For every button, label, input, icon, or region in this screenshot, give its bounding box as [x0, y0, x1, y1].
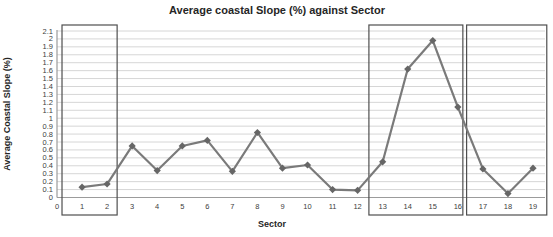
- chart-title: Average coastal Slope (%) against Sector: [169, 4, 386, 16]
- y-tick-label: 1.9: [43, 42, 53, 51]
- y-tick-label: 1.7: [43, 58, 53, 67]
- x-tick-label: 17: [479, 202, 487, 211]
- x-tick-label: 11: [329, 202, 337, 211]
- x-tick-label: 5: [180, 202, 184, 211]
- y-tick-label: 0.3: [43, 169, 53, 178]
- y-tick-label: 1: [49, 114, 53, 123]
- y-tick-label: 1.8: [43, 50, 53, 59]
- x-tick-label: 2: [105, 202, 109, 211]
- data-series: [78, 37, 536, 197]
- y-tick-label: 2: [49, 34, 53, 43]
- x-tick-label: 6: [205, 202, 209, 211]
- x-tick-label: 7: [230, 202, 234, 211]
- y-tick-label: 1.2: [43, 98, 53, 107]
- y-tick-label: 0.7: [43, 138, 53, 147]
- x-tick-label: 3: [130, 202, 134, 211]
- line-chart-canvas: 00.10.20.30.40.50.60.70.80.911.11.21.31.…: [0, 0, 553, 237]
- y-tick-label: 0.1: [43, 185, 53, 194]
- y-tick-label: 0.5: [43, 153, 53, 162]
- x-tick-label: 15: [429, 202, 437, 211]
- x-tick-label: 9: [280, 202, 284, 211]
- x-axis-title: Sector: [258, 219, 287, 229]
- x-tick-label: 10: [303, 202, 311, 211]
- y-tick-label: 0.6: [43, 145, 53, 154]
- x-tick-label: 0: [55, 202, 59, 211]
- coastal-slope-chart: 00.10.20.30.40.50.60.70.80.911.11.21.31.…: [0, 0, 553, 237]
- gridlines: [57, 31, 545, 198]
- x-tick-label: 12: [353, 202, 361, 211]
- y-axis-title: Average Coastal Slope (%): [2, 57, 12, 171]
- x-tick-label: 13: [379, 202, 387, 211]
- x-tick-label: 1: [80, 202, 84, 211]
- y-tick-label: 2.1: [43, 27, 53, 36]
- y-tick-label: 0.8: [43, 130, 53, 139]
- x-tick-label: 14: [404, 202, 412, 211]
- y-tick-label: 0.4: [43, 161, 53, 170]
- y-tick-label: 0.9: [43, 122, 53, 131]
- y-tick-label: 1.1: [43, 106, 53, 115]
- y-tick-label: 1.6: [43, 66, 53, 75]
- annotation-boxes: [62, 25, 547, 215]
- data-point: [454, 104, 461, 111]
- x-tick-label: 18: [504, 202, 512, 211]
- y-tick-label: 0.2: [43, 177, 53, 186]
- y-tick-label: 1.5: [43, 74, 53, 83]
- x-tick-label: 8: [255, 202, 259, 211]
- x-tick-label: 4: [155, 202, 159, 211]
- x-tick-label: 16: [454, 202, 462, 211]
- y-tick-label: 1.3: [43, 90, 53, 99]
- y-tick-label: 0: [49, 193, 53, 202]
- x-tick-label: 19: [529, 202, 537, 211]
- annotation-box: [369, 25, 463, 215]
- series-line: [82, 41, 533, 194]
- y-tick-label: 1.4: [43, 82, 53, 91]
- annotation-box: [467, 25, 547, 215]
